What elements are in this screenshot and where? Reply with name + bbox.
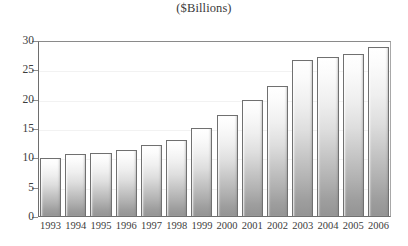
bar	[217, 115, 238, 217]
x-tick-label: 1993	[38, 221, 63, 232]
y-tick-label: 10	[0, 153, 34, 165]
bar-chart-figure: ($Billions) 051015202530 199319941995199…	[0, 0, 408, 246]
bar	[90, 153, 111, 217]
bar	[292, 60, 313, 217]
x-tick-label: 1996	[114, 221, 139, 232]
x-tick-label: 1994	[63, 221, 88, 232]
bar	[267, 86, 288, 217]
y-tick-label: 15	[0, 123, 34, 135]
y-tick-label: 30	[0, 35, 34, 47]
bar	[116, 150, 137, 217]
y-tick-label: 5	[0, 182, 34, 194]
bar	[343, 54, 364, 217]
x-axis: 1993199419951996199719981999200020012002…	[38, 221, 391, 239]
bar	[166, 140, 187, 217]
chart-subtitle: ($Billions)	[0, 1, 408, 16]
x-tick-label: 2003	[290, 221, 315, 232]
x-tick-label: 1995	[88, 221, 113, 232]
bar	[141, 145, 162, 217]
x-tick-label: 1999	[189, 221, 214, 232]
y-tick-label: 20	[0, 94, 34, 106]
y-tick-label: 25	[0, 65, 34, 77]
x-tick-label: 2001	[240, 221, 265, 232]
bar	[40, 158, 61, 217]
x-tick-label: 2000	[215, 221, 240, 232]
x-tick-label: 1998	[164, 221, 189, 232]
x-tick-label: 2005	[341, 221, 366, 232]
bars-layer	[38, 41, 391, 217]
bar	[368, 47, 389, 217]
bar	[191, 128, 212, 217]
x-tick-label: 1997	[139, 221, 164, 232]
bar	[65, 154, 86, 217]
x-tick-label: 2006	[366, 221, 391, 232]
y-tick-label: 0	[0, 211, 34, 223]
x-tick-label: 2002	[265, 221, 290, 232]
x-tick-label: 2004	[315, 221, 340, 232]
bar	[242, 100, 263, 217]
bar	[317, 57, 338, 217]
